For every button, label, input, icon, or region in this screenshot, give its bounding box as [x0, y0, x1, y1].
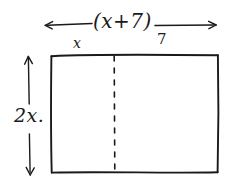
height-expression-label: 2x. — [14, 106, 44, 125]
segment-left-label: x — [73, 36, 81, 50]
divider-dashed-line — [114, 56, 115, 172]
segment-right-label: 7 — [157, 32, 167, 47]
width-expression-label: (x+7) — [93, 11, 152, 31]
rectangle-outline — [51, 55, 218, 173]
diagram-canvas: (x+7) x 7 2x. — [0, 0, 229, 185]
